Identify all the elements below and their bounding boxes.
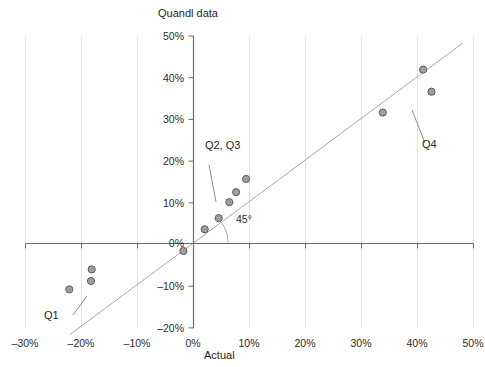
x-tick-label-minus20: ‒20%	[68, 338, 95, 349]
annotation-angle-45: 45°	[236, 214, 252, 225]
annotation-q1: Q1	[44, 310, 59, 321]
data-point	[66, 286, 73, 293]
data-point	[88, 266, 95, 273]
data-point	[243, 175, 250, 182]
x-tick-label-minus30: ‒30%	[12, 338, 39, 349]
leader-line-q2q3	[209, 165, 216, 202]
y-tick-label-minus20: ‒20%	[148, 323, 184, 334]
plot-canvas	[0, 0, 485, 367]
data-point	[226, 199, 233, 206]
x-axis-ticks	[26, 244, 474, 249]
data-point	[201, 226, 208, 233]
x-tick-label-20: 20%	[294, 338, 315, 349]
data-point	[233, 189, 240, 196]
x-tick-label-50: 50%	[462, 338, 483, 349]
y-tick-label-0: 0%	[154, 238, 184, 249]
angle-arc	[218, 219, 228, 244]
scatter-chart: Quandl data Actual 50% 40% 30% 20% 10% 0…	[0, 0, 485, 367]
identity-reference-line	[70, 43, 463, 335]
y-tick-label-20: 20%	[154, 156, 184, 167]
x-tick-label-30: 30%	[350, 338, 371, 349]
data-point	[379, 109, 386, 116]
x-tick-label-minus10: ‒10%	[124, 338, 151, 349]
y-tick-label-50: 50%	[154, 31, 184, 42]
data-points	[66, 66, 435, 293]
y-tick-label-40: 40%	[154, 73, 184, 84]
annotation-q2-q3: Q2, Q3	[205, 140, 240, 151]
y-axis-ticks	[189, 36, 194, 328]
y-tick-label-30: 30%	[154, 114, 184, 125]
x-axis-title: Actual	[204, 350, 235, 361]
y-tick-label-10: 10%	[154, 198, 184, 209]
annotation-q4: Q4	[422, 139, 437, 150]
x-tick-label-40: 40%	[406, 338, 427, 349]
y-axis-title: Quandl data	[158, 8, 218, 19]
data-point	[420, 66, 427, 73]
data-point	[215, 215, 222, 222]
x-tick-label-10: 10%	[238, 338, 259, 349]
x-tick-label-0: 0%	[185, 338, 200, 349]
data-point	[428, 88, 435, 95]
leader-line-q1	[73, 296, 87, 315]
data-point	[87, 277, 94, 284]
y-tick-label-minus10: ‒10%	[148, 281, 184, 292]
